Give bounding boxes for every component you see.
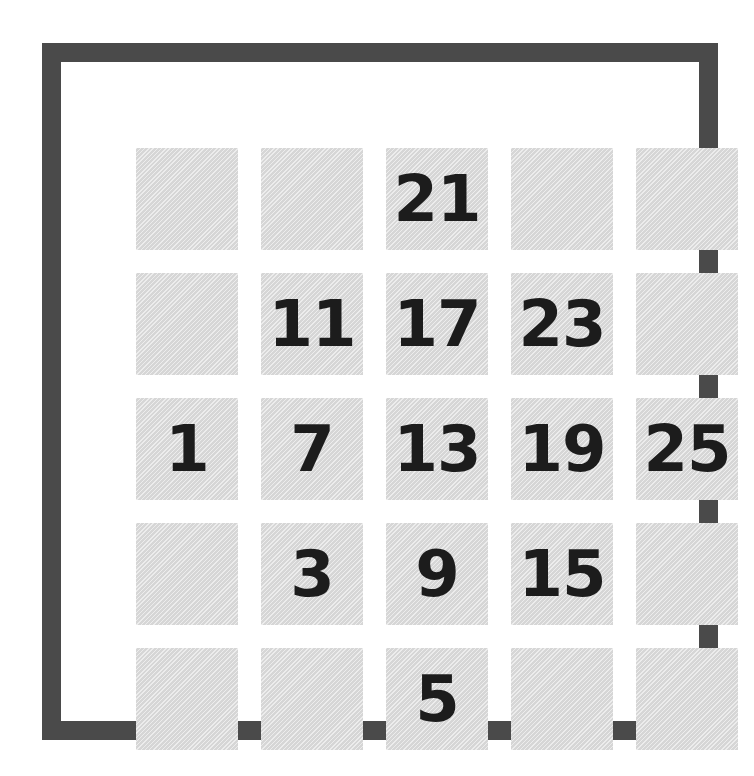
grid-cell[interactable]: 19 (511, 398, 613, 500)
cell-value: 11 (268, 292, 355, 356)
grid-cell[interactable] (136, 148, 238, 250)
grid-cell[interactable]: 5 (386, 648, 488, 750)
cell-value: 19 (518, 417, 605, 481)
grid-cell[interactable]: 3 (261, 523, 363, 625)
cell-value: 21 (393, 167, 480, 231)
cell-value: 7 (290, 417, 334, 481)
cell-value: 9 (415, 542, 459, 606)
grid-cell[interactable] (636, 648, 738, 750)
cell-value: 15 (518, 542, 605, 606)
grid-cell[interactable] (136, 273, 238, 375)
grid-cell[interactable] (261, 648, 363, 750)
grid-cell[interactable]: 17 (386, 273, 488, 375)
grid-cell[interactable] (261, 148, 363, 250)
grid-cell[interactable] (511, 148, 613, 250)
grid-cell[interactable]: 1 (136, 398, 238, 500)
cell-value: 5 (415, 667, 459, 731)
grid-cell[interactable]: 23 (511, 273, 613, 375)
cell-value: 1 (165, 417, 209, 481)
cell-value: 25 (643, 417, 730, 481)
cell-value: 17 (393, 292, 480, 356)
cell-value: 13 (393, 417, 480, 481)
board-frame: 21 11 17 23 1 7 13 (42, 43, 718, 740)
grid-cell[interactable]: 21 (386, 148, 488, 250)
grid-cell[interactable] (136, 523, 238, 625)
number-grid: 21 11 17 23 1 7 13 (136, 148, 738, 750)
grid-cell[interactable]: 25 (636, 398, 738, 500)
grid-cell[interactable]: 15 (511, 523, 613, 625)
grid-cell[interactable] (636, 148, 738, 250)
grid-cell[interactable] (511, 648, 613, 750)
grid-cell[interactable] (636, 523, 738, 625)
cell-value: 3 (290, 542, 334, 606)
grid-cell[interactable]: 13 (386, 398, 488, 500)
grid-cell[interactable]: 11 (261, 273, 363, 375)
grid-cell[interactable] (136, 648, 238, 750)
grid-cell[interactable]: 7 (261, 398, 363, 500)
grid-cell[interactable]: 9 (386, 523, 488, 625)
cell-value: 23 (518, 292, 605, 356)
grid-cell[interactable] (636, 273, 738, 375)
